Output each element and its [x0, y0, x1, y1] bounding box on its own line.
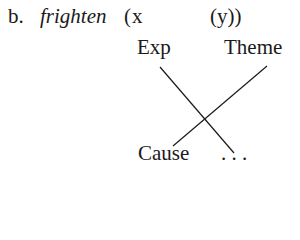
line-theme-to-cause [173, 66, 267, 146]
ellipsis: . . . [221, 143, 247, 164]
role-cause: Cause [138, 143, 189, 164]
